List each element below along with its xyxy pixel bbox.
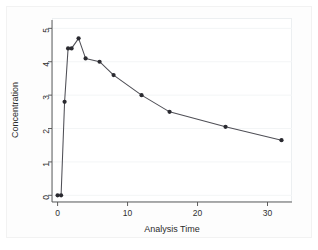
y-tick-label: 4 [41,62,51,78]
data-point [139,93,143,97]
x-axis-title: Analysis Time [52,218,292,236]
data-point [59,193,63,197]
data-point [111,73,115,77]
data-point [83,56,87,60]
data-point [62,100,66,104]
data-point [279,138,283,142]
gridlines [52,28,292,195]
y-tick-label: 2 [41,129,51,145]
y-tick-label: 3 [41,95,51,111]
chart-screenshot: 0102030 012345 Concentration Analysis Ti… [0,0,318,250]
data-point [223,125,227,129]
axis-ticks [48,28,268,206]
data-markers [56,36,284,197]
y-axis-title-text: Concentration [10,82,20,138]
x-tick-label: 20 [188,208,208,218]
y-tick-label: 1 [41,162,51,178]
y-tick-label: 0 [41,195,51,211]
data-point [76,36,80,40]
data-point [69,46,73,50]
data-point [97,60,101,64]
y-axis-title: Concentration [8,0,22,220]
x-tick-label: 30 [258,208,278,218]
x-tick-label: 10 [118,208,138,218]
x-axis-title-text: Analysis Time [144,224,200,234]
y-tick-label: 5 [41,28,51,44]
data-point [167,110,171,114]
